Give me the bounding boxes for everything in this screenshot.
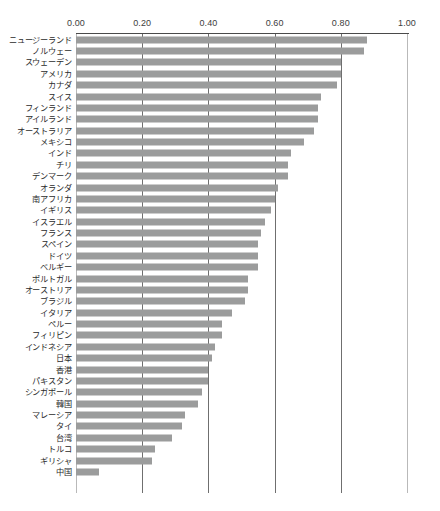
category-label: スウェーデン bbox=[25, 58, 72, 67]
category-label: フィリピン bbox=[32, 331, 72, 340]
bar bbox=[76, 59, 341, 66]
category-label: イギリス bbox=[40, 206, 72, 215]
bar-row: スウェーデン bbox=[76, 57, 407, 68]
bar-row: フィンランド bbox=[76, 102, 407, 113]
bar bbox=[76, 468, 99, 475]
bar-row: イスラエル bbox=[76, 216, 407, 227]
bar-row: オランダ bbox=[76, 182, 407, 193]
category-label: ドイツ bbox=[48, 251, 72, 260]
category-label: ブラジル bbox=[40, 297, 72, 306]
bar-row: フランス bbox=[76, 227, 407, 238]
bar-row: ベルギー bbox=[76, 262, 407, 273]
bar-row: 香港 bbox=[76, 364, 407, 375]
bar-row: ポルトガル bbox=[76, 273, 407, 284]
category-label: スイス bbox=[48, 92, 72, 101]
bar bbox=[76, 434, 172, 441]
bar-row: カナダ bbox=[76, 80, 407, 91]
bar bbox=[76, 139, 304, 146]
bar-row: シンガポール bbox=[76, 387, 407, 398]
bar bbox=[76, 332, 222, 339]
bar-row: ドイツ bbox=[76, 250, 407, 261]
plot-area: 0.000.200.400.600.801.00 ニュージーランドノルウェースウ… bbox=[76, 33, 407, 492]
bar bbox=[76, 195, 275, 202]
category-label: シンガポール bbox=[25, 388, 72, 397]
bar-row: 韓国 bbox=[76, 398, 407, 409]
bar-chart: 0.000.200.400.600.801.00 ニュージーランドノルウェースウ… bbox=[0, 0, 440, 511]
category-label: スペイン bbox=[41, 240, 72, 249]
bar bbox=[76, 127, 314, 134]
bar bbox=[76, 366, 208, 373]
category-label: インドネシア bbox=[25, 342, 72, 351]
category-label: イタリア bbox=[40, 308, 72, 317]
bar bbox=[76, 286, 248, 293]
category-label: アメリカ bbox=[40, 69, 72, 78]
category-label: マレーシア bbox=[32, 411, 72, 420]
x-tick-label: 0.00 bbox=[67, 18, 85, 28]
bar-row: ニュージーランド bbox=[76, 34, 407, 45]
bar-row: アイルランド bbox=[76, 114, 407, 125]
bar-row: イタリア bbox=[76, 307, 407, 318]
bar-row: マレーシア bbox=[76, 409, 407, 420]
bar bbox=[76, 343, 215, 350]
x-tick-label: 1.00 bbox=[398, 18, 416, 28]
bar bbox=[76, 207, 271, 214]
bar bbox=[76, 150, 291, 157]
bar-row: オーストリア bbox=[76, 284, 407, 295]
category-label: 台湾 bbox=[56, 433, 72, 442]
bar bbox=[76, 298, 245, 305]
bar bbox=[76, 161, 288, 168]
bar bbox=[76, 389, 202, 396]
bar bbox=[76, 36, 367, 43]
bar-row: ブラジル bbox=[76, 296, 407, 307]
bar-row: アメリカ bbox=[76, 68, 407, 79]
category-label: アイルランド bbox=[25, 115, 72, 124]
category-label: デンマーク bbox=[32, 172, 72, 181]
bar bbox=[76, 218, 265, 225]
bar-row: イギリス bbox=[76, 205, 407, 216]
bar bbox=[76, 252, 258, 259]
bar bbox=[76, 377, 208, 384]
bar-row: 日本 bbox=[76, 353, 407, 364]
bar-row: フィリピン bbox=[76, 330, 407, 341]
bar bbox=[76, 275, 248, 282]
bar-row: スイス bbox=[76, 91, 407, 102]
category-label: タイ bbox=[56, 422, 72, 431]
category-label: インド bbox=[48, 149, 72, 158]
bar-row: パキスタン bbox=[76, 375, 407, 386]
bar-row: インドネシア bbox=[76, 341, 407, 352]
bar-row: トルコ bbox=[76, 444, 407, 455]
bar bbox=[76, 446, 155, 453]
bar bbox=[76, 400, 198, 407]
bar bbox=[76, 104, 318, 111]
bar bbox=[76, 321, 222, 328]
bar bbox=[76, 412, 185, 419]
category-label: イスラエル bbox=[32, 217, 72, 226]
bar bbox=[76, 457, 152, 464]
bar-row: オーストラリア bbox=[76, 125, 407, 136]
category-label: ニュージーランド bbox=[9, 35, 72, 44]
bar bbox=[76, 184, 278, 191]
bar-rows: ニュージーランドノルウェースウェーデンアメリカカナダスイスフィンランドアイルラン… bbox=[76, 34, 407, 478]
category-label: カナダ bbox=[48, 81, 72, 90]
bar bbox=[76, 309, 232, 316]
bar-row: インド bbox=[76, 148, 407, 159]
category-label: フランス bbox=[40, 229, 72, 238]
bar-row: デンマーク bbox=[76, 171, 407, 182]
category-label: ノルウェー bbox=[32, 47, 72, 56]
bar bbox=[76, 230, 261, 237]
x-tick-label: 0.40 bbox=[199, 18, 217, 28]
bar bbox=[76, 355, 212, 362]
bar-row: 中国 bbox=[76, 466, 407, 477]
category-label: 中国 bbox=[56, 467, 72, 476]
x-tick-label: 0.80 bbox=[332, 18, 350, 28]
category-label: フィンランド bbox=[25, 103, 72, 112]
bar bbox=[76, 116, 318, 123]
bar bbox=[76, 93, 321, 100]
clipped-header-artifact bbox=[0, 0, 440, 7]
category-label: ベルギー bbox=[40, 263, 72, 272]
bar bbox=[76, 82, 337, 89]
bar-row: 南アフリカ bbox=[76, 193, 407, 204]
category-label: 韓国 bbox=[56, 399, 72, 408]
category-label: ギリシャ bbox=[40, 456, 72, 465]
category-label: メキシコ bbox=[40, 138, 72, 147]
